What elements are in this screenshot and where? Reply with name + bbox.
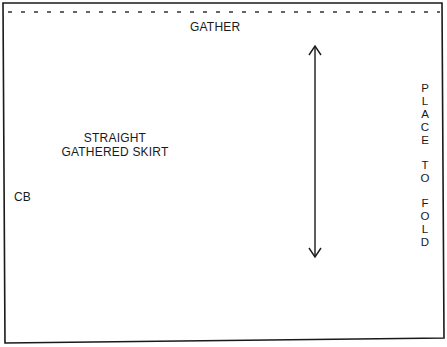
fold-letter: A bbox=[418, 108, 432, 121]
fold-spacer bbox=[418, 185, 432, 197]
grainline-arrow-icon bbox=[309, 46, 321, 257]
gather-label: GATHER bbox=[190, 21, 240, 34]
fold-letter: O bbox=[418, 172, 432, 185]
fold-letter: E bbox=[418, 134, 432, 147]
center-back-label: CB bbox=[14, 191, 31, 204]
fold-letter: L bbox=[418, 223, 432, 236]
fold-spacer bbox=[418, 147, 432, 159]
pattern-title-line1: STRAIGHT bbox=[60, 132, 170, 145]
fold-letter: D bbox=[418, 236, 432, 249]
fold-letter: L bbox=[418, 95, 432, 108]
fold-letter: O bbox=[418, 210, 432, 223]
pattern-border bbox=[3, 3, 444, 343]
fold-letter: F bbox=[418, 197, 432, 210]
fold-letter: P bbox=[418, 82, 432, 95]
pattern-piece-outline bbox=[0, 0, 447, 347]
place-to-fold-label: P L A C E T O F O L D bbox=[418, 82, 432, 249]
fold-letter: T bbox=[418, 159, 432, 172]
pattern-title-line2: GATHERED SKIRT bbox=[60, 146, 170, 159]
fold-letter: C bbox=[418, 121, 432, 134]
